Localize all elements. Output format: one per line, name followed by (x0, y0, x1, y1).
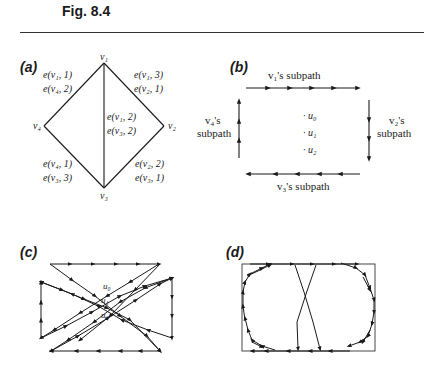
edge-label: e(v₃, 3) (43, 172, 73, 184)
subpath-top-label: v₁'s subpath (268, 69, 321, 81)
vertex-v2-label: v₂ (168, 120, 176, 131)
edge-label: e(v₁, 3) (134, 69, 164, 81)
vertex-v3-label: v₃ (100, 190, 108, 201)
edge-label: e(v₁, 2) (107, 111, 137, 123)
subpath-left-label-1: v₄'s (205, 114, 221, 126)
edge-label: e(v₂, 2) (135, 158, 165, 170)
edge-label: e(v₄, 2) (43, 83, 73, 95)
subpath-bottom-label: v₃'s subpath (277, 180, 330, 192)
subpath-right-label-1: v₂'s (389, 114, 405, 126)
point-u0: u₀ (103, 281, 111, 291)
point-u2: · u₂ (303, 144, 317, 155)
vertex-v1-label: v₁ (100, 51, 108, 62)
panel-c-tangled-paths (41, 264, 172, 351)
edge-label: e(v₃, 1) (135, 172, 165, 184)
edge-label: e(v₁, 1) (43, 69, 73, 81)
edge-label: e(v₃, 2) (107, 125, 137, 137)
point-u2: u₂ (101, 310, 109, 320)
figure-canvas: v₁ v₂ v₃ v₄ e(v₁, 1) e(v₄, 2) e(v₁, 3) e… (0, 0, 439, 383)
subpath-left-label-2: subpath (197, 127, 232, 139)
subpath-right-label-2: subpath (377, 127, 412, 139)
edge-label: e(v₂, 1) (134, 83, 164, 95)
point-u1: u₁ (101, 295, 109, 305)
panel-d-rounded-circuit (242, 263, 375, 351)
point-u1: · u₁ (303, 127, 316, 138)
vertex-v4-label: v₄ (33, 120, 41, 131)
panel-a-graph (44, 63, 164, 188)
edge-label: e(v₄, 1) (43, 158, 73, 170)
point-u0: · u₀ (303, 110, 317, 121)
